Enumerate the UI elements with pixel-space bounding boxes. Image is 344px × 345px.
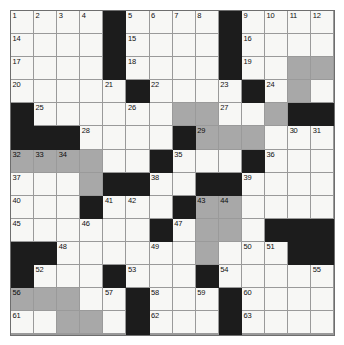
grid-open-cell[interactable] (150, 103, 173, 126)
grid-open-cell[interactable]: 16 (242, 34, 265, 57)
grid-open-cell[interactable]: 3 (57, 11, 80, 34)
grid-open-cell[interactable]: 24 (265, 80, 288, 103)
grid-open-cell[interactable]: 36 (265, 150, 288, 173)
grid-open-cell[interactable] (265, 34, 288, 57)
grid-shaded-cell[interactable] (265, 103, 288, 126)
grid-shaded-cell[interactable] (196, 219, 219, 242)
grid-open-cell[interactable] (196, 150, 219, 173)
grid-open-cell[interactable] (57, 196, 80, 219)
grid-open-cell[interactable]: 28 (80, 126, 103, 149)
grid-open-cell[interactable] (265, 311, 288, 334)
grid-open-cell[interactable] (265, 334, 288, 335)
grid-open-cell[interactable]: 2 (34, 11, 57, 34)
grid-open-cell[interactable] (34, 196, 57, 219)
grid-open-cell[interactable] (288, 150, 311, 173)
grid-open-cell[interactable]: 66 (242, 334, 265, 335)
grid-shaded-cell[interactable]: 56 (11, 288, 34, 311)
grid-open-cell[interactable]: 27 (219, 103, 242, 126)
grid-open-cell[interactable] (34, 311, 57, 334)
grid-shaded-cell[interactable] (80, 311, 103, 334)
grid-open-cell[interactable]: 18 (126, 57, 149, 80)
grid-shaded-cell[interactable] (196, 242, 219, 265)
grid-open-cell[interactable] (80, 242, 103, 265)
grid-open-cell[interactable] (196, 80, 219, 103)
grid-shaded-cell[interactable] (57, 288, 80, 311)
grid-open-cell[interactable]: 49 (150, 242, 173, 265)
grid-open-cell[interactable] (219, 242, 242, 265)
grid-open-cell[interactable]: 21 (103, 80, 126, 103)
grid-open-cell[interactable]: 4 (80, 11, 103, 34)
grid-open-cell[interactable]: 25 (34, 103, 57, 126)
grid-open-cell[interactable]: 7 (173, 11, 196, 34)
grid-open-cell[interactable] (80, 334, 103, 335)
grid-open-cell[interactable] (34, 219, 57, 242)
grid-open-cell[interactable] (265, 173, 288, 196)
grid-open-cell[interactable] (80, 80, 103, 103)
grid-open-cell[interactable] (103, 150, 126, 173)
grid-open-cell[interactable] (242, 196, 265, 219)
grid-shaded-cell[interactable]: 34 (57, 150, 80, 173)
grid-open-cell[interactable]: 64 (11, 334, 34, 335)
grid-shaded-cell[interactable] (80, 173, 103, 196)
grid-shaded-cell[interactable]: 32 (11, 150, 34, 173)
grid-open-cell[interactable] (196, 57, 219, 80)
grid-open-cell[interactable]: 1 (11, 11, 34, 34)
grid-open-cell[interactable]: 57 (103, 288, 126, 311)
grid-shaded-cell[interactable] (288, 57, 311, 80)
grid-open-cell[interactable]: 15 (126, 34, 149, 57)
grid-open-cell[interactable] (288, 265, 311, 288)
grid-open-cell[interactable] (173, 242, 196, 265)
grid-shaded-cell[interactable] (219, 126, 242, 149)
grid-open-cell[interactable] (103, 311, 126, 334)
grid-open-cell[interactable]: 5 (126, 11, 149, 34)
grid-open-cell[interactable]: 50 (242, 242, 265, 265)
grid-open-cell[interactable] (103, 219, 126, 242)
grid-shaded-cell[interactable] (80, 150, 103, 173)
grid-open-cell[interactable] (196, 311, 219, 334)
grid-open-cell[interactable] (80, 34, 103, 57)
grid-open-cell[interactable] (288, 196, 311, 219)
grid-open-cell[interactable] (311, 150, 334, 173)
grid-open-cell[interactable]: 35 (173, 150, 196, 173)
grid-open-cell[interactable] (173, 57, 196, 80)
grid-open-cell[interactable] (34, 34, 57, 57)
grid-shaded-cell[interactable]: 44 (219, 196, 242, 219)
grid-open-cell[interactable] (80, 265, 103, 288)
grid-open-cell[interactable] (34, 334, 57, 335)
grid-open-cell[interactable]: 20 (11, 80, 34, 103)
grid-open-cell[interactable]: 8 (196, 11, 219, 34)
grid-open-cell[interactable] (150, 126, 173, 149)
grid-open-cell[interactable] (196, 34, 219, 57)
grid-open-cell[interactable]: 38 (150, 173, 173, 196)
grid-open-cell[interactable]: 45 (11, 219, 34, 242)
grid-open-cell[interactable] (57, 334, 80, 335)
grid-open-cell[interactable]: 19 (242, 57, 265, 80)
grid-open-cell[interactable] (242, 103, 265, 126)
grid-open-cell[interactable] (80, 57, 103, 80)
grid-shaded-cell[interactable] (219, 219, 242, 242)
grid-open-cell[interactable] (173, 34, 196, 57)
grid-open-cell[interactable] (311, 80, 334, 103)
grid-open-cell[interactable] (173, 265, 196, 288)
grid-open-cell[interactable]: 31 (311, 126, 334, 149)
grid-shaded-cell[interactable] (242, 126, 265, 149)
grid-open-cell[interactable] (311, 196, 334, 219)
grid-open-cell[interactable] (265, 288, 288, 311)
grid-open-cell[interactable] (265, 126, 288, 149)
grid-shaded-cell[interactable] (288, 80, 311, 103)
grid-open-cell[interactable] (288, 311, 311, 334)
grid-open-cell[interactable]: 42 (126, 196, 149, 219)
grid-open-cell[interactable] (288, 173, 311, 196)
grid-open-cell[interactable] (80, 103, 103, 126)
grid-open-cell[interactable] (126, 242, 149, 265)
grid-open-cell[interactable] (57, 80, 80, 103)
grid-open-cell[interactable] (173, 334, 196, 335)
grid-shaded-cell[interactable] (173, 103, 196, 126)
grid-open-cell[interactable]: 30 (288, 126, 311, 149)
grid-open-cell[interactable]: 61 (11, 311, 34, 334)
grid-open-cell[interactable]: 47 (173, 219, 196, 242)
grid-open-cell[interactable] (311, 311, 334, 334)
grid-open-cell[interactable] (126, 150, 149, 173)
grid-open-cell[interactable] (103, 242, 126, 265)
grid-open-cell[interactable]: 65 (150, 334, 173, 335)
